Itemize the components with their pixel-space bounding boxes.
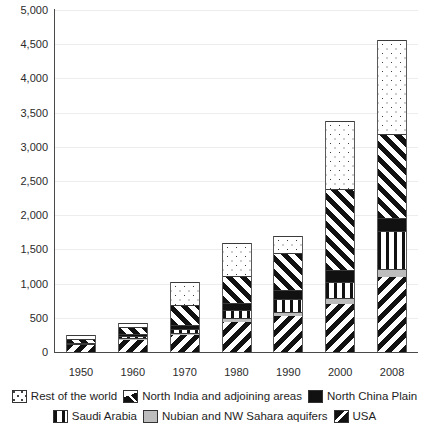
- y-tick-label: 1,000: [20, 279, 48, 290]
- segment-divider: [223, 276, 251, 277]
- legend-label: USA: [353, 410, 377, 423]
- bar-segment: [378, 277, 406, 352]
- x-tick-label: 2008: [367, 367, 417, 378]
- y-tick-label: 3,000: [20, 142, 48, 153]
- x-tick-label: 1960: [108, 367, 158, 378]
- segment-divider: [378, 134, 406, 135]
- legend-item[interactable]: USA: [334, 410, 377, 423]
- y-tick-label: 2,500: [20, 176, 48, 187]
- y-tick-label: 500: [30, 313, 48, 324]
- segment-divider: [171, 282, 199, 283]
- grid-line: [55, 113, 418, 114]
- grid-line: [55, 78, 418, 79]
- x-tick-label: 1970: [160, 367, 210, 378]
- grid-line: [55, 181, 418, 182]
- segment-divider: [274, 236, 302, 237]
- legend-item[interactable]: Rest of the world: [12, 390, 117, 403]
- segment-divider: [171, 325, 199, 326]
- bar-segment: [326, 270, 354, 282]
- legend-item[interactable]: North India and adjoining areas: [123, 390, 302, 403]
- segment-divider: [223, 318, 251, 319]
- bar-segment: [119, 327, 147, 334]
- segment-divider: [378, 218, 406, 219]
- legend-label: North China Plain: [327, 390, 417, 403]
- bar-segment: [119, 334, 147, 336]
- bar-segment: [326, 189, 354, 270]
- y-tick-label: 3,500: [20, 108, 48, 119]
- segment-divider: [274, 253, 302, 254]
- segment-divider: [274, 312, 302, 313]
- legend-item[interactable]: North China Plain: [308, 390, 417, 403]
- x-tick-label: 1980: [212, 367, 262, 378]
- stacked-bar-chart: 05001,0001,5002,0002,5003,0003,5004,0004…: [0, 0, 429, 430]
- segment-divider: [171, 305, 199, 306]
- legend-label: Rest of the world: [31, 390, 117, 403]
- bar-segment: [378, 40, 406, 134]
- legend-label: Nubian and NW Sahara aquifers: [162, 410, 328, 423]
- x-tick-label: 1950: [56, 367, 106, 378]
- segment-divider: [378, 40, 406, 41]
- segment-divider: [378, 231, 406, 232]
- segment-divider: [119, 338, 147, 339]
- legend-swatch-hatch-forward: [123, 390, 138, 403]
- bar-segment: [119, 338, 147, 339]
- segment-divider: [67, 339, 95, 340]
- bar-segment: [326, 282, 354, 298]
- segment-divider: [171, 333, 199, 334]
- bar-segment: [378, 134, 406, 218]
- legend-swatch-hatch-back: [334, 410, 349, 423]
- grid-line: [55, 215, 418, 216]
- bar-segment: [119, 336, 147, 338]
- grid-line: [55, 44, 418, 45]
- bar-segment: [223, 303, 251, 311]
- grid-line: [55, 147, 418, 148]
- legend-item[interactable]: Saudi Arabia: [53, 410, 137, 423]
- chart-legend: Rest of the worldNorth India and adjoini…: [0, 386, 429, 426]
- segment-divider: [119, 323, 147, 324]
- bar-1990: [273, 236, 303, 352]
- segment-divider: [326, 121, 354, 122]
- y-tick-label: 4,500: [20, 39, 48, 50]
- bar-segment: [378, 218, 406, 231]
- segment-divider: [67, 335, 95, 336]
- legend-row-2: Saudi ArabiaNubian and NW Sahara aquifer…: [0, 406, 429, 426]
- legend-swatch-vertical-stripes: [53, 410, 68, 423]
- segment-divider: [171, 329, 199, 330]
- y-tick-label: 1,500: [20, 244, 48, 255]
- bar-segment: [274, 299, 302, 311]
- bar-segment: [171, 282, 199, 305]
- bar-segment: [378, 269, 406, 277]
- bar-segment: [67, 343, 95, 344]
- bar-segment: [67, 345, 95, 352]
- bar-segment: [223, 310, 251, 318]
- bar-segment: [119, 340, 147, 352]
- legend-swatch-solid-black: [308, 390, 323, 403]
- segment-divider: [119, 334, 147, 335]
- bar-1950: [66, 335, 96, 352]
- legend-label: Saudi Arabia: [72, 410, 137, 423]
- bar-segment: [171, 305, 199, 325]
- bar-segment: [171, 335, 199, 352]
- legend-row-1: Rest of the worldNorth India and adjoini…: [0, 386, 429, 406]
- bar-1960: [118, 323, 148, 352]
- segment-divider: [274, 290, 302, 291]
- segment-divider: [326, 270, 354, 271]
- segment-divider: [223, 310, 251, 311]
- segment-divider: [326, 282, 354, 283]
- bar-segment: [223, 243, 251, 277]
- legend-item[interactable]: Nubian and NW Sahara aquifers: [143, 410, 328, 423]
- bar-segment: [274, 236, 302, 253]
- segment-divider: [67, 344, 95, 345]
- bar-segment: [171, 333, 199, 335]
- bar-segment: [67, 344, 95, 345]
- segment-divider: [223, 243, 251, 244]
- bar-segment: [274, 312, 302, 317]
- bar-1980: [222, 243, 252, 352]
- y-axis-line: [54, 9, 55, 353]
- bar-2000: [325, 121, 355, 352]
- y-tick-label: 2,000: [20, 210, 48, 221]
- segment-divider: [67, 344, 95, 345]
- bar-segment: [171, 329, 199, 333]
- bar-segment: [223, 322, 251, 352]
- segment-divider: [119, 336, 147, 337]
